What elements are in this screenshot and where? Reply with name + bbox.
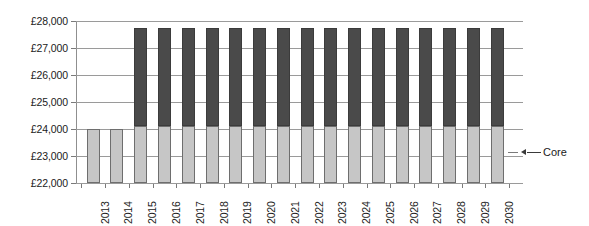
bar-segment-core: [443, 126, 456, 183]
annotation-leader-line: [527, 152, 541, 153]
x-axis-tick-label: 2016: [170, 211, 182, 224]
annotation-leader-stub: [508, 152, 518, 153]
y-axis-tick: [71, 102, 76, 103]
y-axis-tick: [71, 183, 76, 184]
x-axis-tick-label: 2030: [503, 211, 515, 224]
x-axis-tick-label: 2013: [99, 211, 111, 224]
core-annotation-label: Core: [543, 147, 567, 158]
x-axis-tick-label: 2024: [360, 211, 372, 224]
x-axis-tick-label: 2023: [336, 211, 348, 224]
bar-segment-core: [206, 126, 219, 183]
bar-segment-upper: [229, 28, 242, 127]
gridline: [76, 183, 523, 184]
x-axis-tick-label: 2017: [194, 211, 206, 224]
bar-segment-upper: [277, 28, 290, 127]
bar-segment-upper: [206, 28, 219, 127]
y-axis-tick-label: £23,000: [0, 151, 68, 161]
x-axis-tick-label: 2027: [431, 211, 443, 224]
bar-segment-upper: [301, 28, 314, 127]
bar-segment-core: [110, 129, 123, 183]
x-axis-tick-label: 2021: [289, 211, 301, 224]
x-axis-tick-label: 2015: [146, 211, 158, 224]
bar-segment-core: [158, 126, 171, 183]
x-axis-labels: 2013201420152016201720182019202020212022…: [76, 188, 523, 226]
bar-segment-upper: [372, 28, 385, 127]
bar-segment-core: [396, 126, 409, 183]
x-axis-tick-label: 2018: [218, 211, 230, 224]
bar-segment-upper: [158, 28, 171, 127]
bar-segment-core: [301, 126, 314, 183]
arrow-left-icon: [521, 149, 526, 155]
y-axis-tick-label: £27,000: [0, 43, 68, 53]
x-axis-tick-label: 2026: [408, 211, 420, 224]
bar-segment-core: [467, 126, 480, 183]
bar-segment-upper: [348, 28, 361, 127]
x-axis-tick-label: 2014: [122, 211, 134, 224]
y-axis-tick: [71, 75, 76, 76]
x-axis-tick-label: 2028: [455, 211, 467, 224]
gridline: [76, 21, 523, 22]
y-axis-tick-label: £24,000: [0, 124, 68, 134]
bar-chart: £28,000£27,000£26,000£25,000£24,000£23,0…: [0, 0, 589, 226]
y-axis-tick: [71, 129, 76, 130]
x-axis-tick-label: 2029: [479, 211, 491, 224]
bar-segment-core: [372, 126, 385, 183]
bar-segment-core: [419, 126, 432, 183]
bar-segment-upper: [467, 28, 480, 127]
bar-segment-core: [229, 126, 242, 183]
x-axis-tick-label: 2019: [241, 211, 253, 224]
y-axis-labels: £28,000£27,000£26,000£25,000£24,000£23,0…: [0, 0, 68, 226]
bar-segment-upper: [419, 28, 432, 127]
bar-segment-upper: [134, 28, 147, 127]
y-axis-tick: [71, 48, 76, 49]
bar-segment-upper: [324, 28, 337, 127]
x-axis-tick-label: 2022: [313, 211, 325, 224]
bar-segment-core: [324, 126, 337, 183]
y-axis-tick: [71, 156, 76, 157]
bar-segment-upper: [443, 28, 456, 127]
bar-segment-core: [134, 126, 147, 183]
plot-area: [76, 21, 523, 183]
bar-segment-core: [348, 126, 361, 183]
bar-segment-upper: [491, 28, 504, 127]
x-axis-tick-label: 2025: [384, 211, 396, 224]
y-axis-tick: [71, 21, 76, 22]
bar-segment-upper: [182, 28, 195, 127]
bar-segment-core: [182, 126, 195, 183]
y-axis-tick-label: £25,000: [0, 97, 68, 107]
bar-segment-core: [491, 126, 504, 183]
y-axis-tick-label: £22,000: [0, 178, 68, 188]
bar-segment-upper: [253, 28, 266, 127]
core-annotation: Core: [522, 145, 567, 159]
bar-segment-upper: [396, 28, 409, 127]
y-axis-tick-label: £26,000: [0, 70, 68, 80]
y-axis-tick-label: £28,000: [0, 16, 68, 26]
bar-segment-core: [87, 129, 100, 183]
bar-segment-core: [253, 126, 266, 183]
bar-segment-core: [277, 126, 290, 183]
x-axis-tick-label: 2020: [265, 211, 277, 224]
